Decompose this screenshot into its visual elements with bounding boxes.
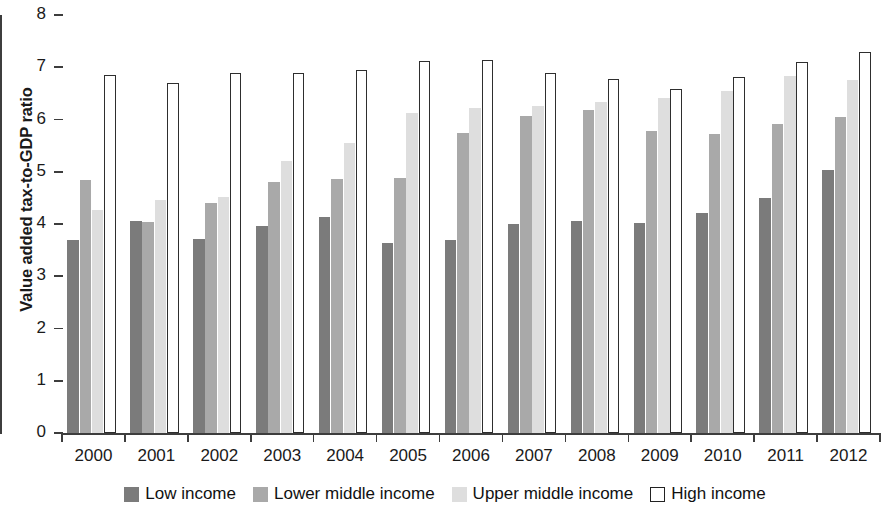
x-tick-label: 2005	[373, 446, 443, 466]
x-tick-label: 2011	[751, 446, 821, 466]
plot-area	[62, 15, 880, 433]
legend-item-lower-middle-income[interactable]: Lower middle income	[253, 484, 435, 504]
legend-item-upper-middle-income[interactable]: Upper middle income	[452, 484, 634, 504]
x-tick-label: 2000	[58, 446, 128, 466]
bar-low-income-2011	[759, 198, 771, 433]
x-tick-mark	[124, 433, 126, 442]
legend-label: Upper middle income	[473, 484, 634, 504]
bar-high-income-2008	[608, 79, 620, 433]
bar-upper-middle-income-2012	[847, 80, 859, 433]
x-tick-label: 2008	[562, 446, 632, 466]
x-tick-mark	[628, 433, 630, 442]
bar-group-2007	[508, 15, 556, 433]
x-tick-label: 2009	[625, 446, 695, 466]
bar-high-income-2002	[230, 73, 242, 433]
x-tick-mark	[816, 433, 818, 442]
bar-lower-middle-income-2012	[835, 117, 847, 433]
bar-low-income-2006	[445, 240, 457, 433]
bar-high-income-2009	[670, 89, 682, 433]
legend-swatch-icon-low-income	[124, 487, 139, 502]
bar-upper-middle-income-2007	[532, 106, 544, 433]
bar-lower-middle-income-2008	[583, 110, 595, 433]
legend-item-low-income[interactable]: Low income	[124, 484, 236, 504]
bar-group-2009	[634, 15, 682, 433]
bar-low-income-2005	[382, 243, 394, 433]
legend-swatch-icon-lower-middle-income	[253, 487, 268, 502]
bar-group-2002	[193, 15, 241, 433]
bar-upper-middle-income-2004	[344, 143, 356, 434]
x-tick-label: 2001	[121, 446, 191, 466]
y-tick-label: 8	[0, 4, 46, 24]
bar-group-2006	[445, 15, 493, 433]
legend-swatch-icon-upper-middle-income	[452, 487, 467, 502]
x-tick-mark	[690, 433, 692, 442]
bar-upper-middle-income-2002	[218, 197, 230, 433]
bar-group-2000	[67, 15, 115, 433]
bar-group-2008	[571, 15, 619, 433]
x-tick-label: 2003	[247, 446, 317, 466]
bar-lower-middle-income-2000	[80, 180, 92, 433]
x-tick-mark	[502, 433, 504, 442]
bar-upper-middle-income-2005	[406, 113, 418, 433]
bar-lower-middle-income-2005	[394, 178, 406, 434]
x-tick-label: 2012	[814, 446, 884, 466]
bar-low-income-2010	[696, 213, 708, 433]
x-tick-mark	[565, 433, 567, 442]
bar-lower-middle-income-2009	[646, 131, 658, 433]
bar-high-income-2012	[859, 52, 871, 433]
x-axis-line	[62, 433, 881, 435]
bar-upper-middle-income-2000	[92, 210, 104, 433]
y-tick-label: 6	[0, 109, 46, 129]
y-tick-label: 5	[0, 161, 46, 181]
bar-low-income-2002	[193, 239, 205, 433]
bar-chart: Value added tax-to-GDP ratio 012345678 2…	[0, 0, 890, 516]
y-tick-label: 0	[0, 422, 46, 442]
bar-group-2003	[256, 15, 304, 433]
bar-group-2001	[130, 15, 178, 433]
bar-upper-middle-income-2011	[784, 76, 796, 433]
bar-upper-middle-income-2009	[658, 98, 670, 433]
bar-upper-middle-income-2006	[469, 108, 481, 433]
x-tick-mark	[61, 433, 63, 442]
bar-group-2011	[759, 15, 807, 433]
bar-lower-middle-income-2003	[268, 182, 280, 433]
bar-upper-middle-income-2001	[155, 200, 167, 433]
y-tick-label: 3	[0, 265, 46, 285]
bar-low-income-2009	[634, 223, 646, 433]
bar-low-income-2001	[130, 221, 142, 433]
x-tick-mark	[250, 433, 252, 442]
x-tick-mark	[753, 433, 755, 442]
y-tick-label: 7	[0, 56, 46, 76]
bar-upper-middle-income-2010	[721, 91, 733, 433]
y-tick-label: 4	[0, 213, 46, 233]
x-tick-label: 2002	[184, 446, 254, 466]
bar-lower-middle-income-2001	[142, 222, 154, 433]
bar-high-income-2007	[545, 73, 557, 433]
bar-lower-middle-income-2011	[772, 124, 784, 433]
legend-item-high-income[interactable]: High income	[650, 484, 766, 504]
y-tick-label: 1	[0, 370, 46, 390]
x-tick-mark	[439, 433, 441, 442]
legend-label: Lower middle income	[274, 484, 435, 504]
bar-low-income-2003	[256, 226, 268, 433]
bar-high-income-2005	[419, 61, 431, 433]
legend-label: Low income	[145, 484, 236, 504]
legend-swatch-icon-high-income	[650, 487, 665, 502]
bar-group-2012	[822, 15, 870, 433]
bar-lower-middle-income-2007	[520, 116, 532, 433]
bar-high-income-2006	[482, 60, 494, 433]
x-tick-label: 2010	[688, 446, 758, 466]
bar-lower-middle-income-2006	[457, 133, 469, 433]
bar-high-income-2003	[293, 73, 305, 433]
y-tick-label: 2	[0, 318, 46, 338]
bar-upper-middle-income-2003	[281, 161, 293, 433]
bar-group-2010	[696, 15, 744, 433]
bar-low-income-2008	[571, 221, 583, 433]
bar-low-income-2000	[67, 240, 79, 433]
bar-low-income-2004	[319, 217, 331, 433]
x-tick-label: 2004	[310, 446, 380, 466]
bar-high-income-2000	[104, 75, 116, 433]
bar-high-income-2004	[356, 70, 368, 433]
y-axis-title: Value added tax-to-GDP ratio	[17, 40, 36, 360]
x-tick-label: 2006	[436, 446, 506, 466]
